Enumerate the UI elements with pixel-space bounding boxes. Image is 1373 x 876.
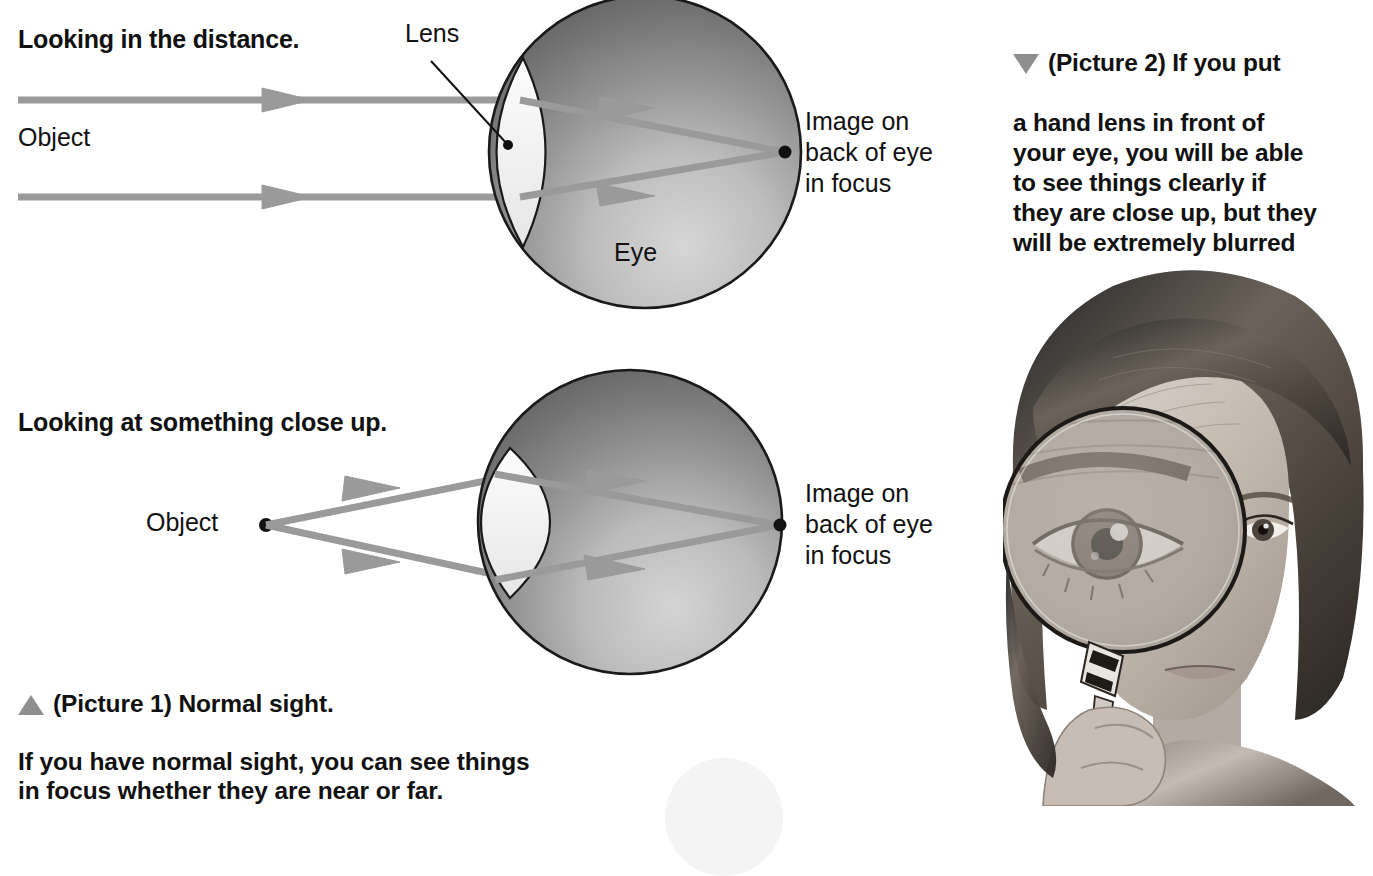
- image-point-bottom: [774, 519, 787, 532]
- caption-picture-2-title: (Picture 2) If you put: [1048, 48, 1280, 78]
- incoming-rays-top: [18, 88, 500, 209]
- caption-picture-1: (Picture 1) Normal sight. If you have no…: [18, 660, 530, 834]
- photo-girl-with-hand-lens: [1003, 258, 1373, 806]
- triangle-down-icon: [1013, 54, 1039, 74]
- image-label-bottom: Image on back of eye in focus: [805, 478, 933, 571]
- heading-looking-distance: Looking in the distance.: [18, 25, 299, 54]
- heading-looking-close: Looking at something close up.: [18, 408, 387, 437]
- eye-label-top: Eye: [614, 238, 657, 267]
- image-label-top: Image on back of eye in focus: [805, 106, 933, 199]
- triangle-up-icon: [18, 695, 44, 715]
- background-artifact-circle: [665, 758, 783, 876]
- object-label-top: Object: [18, 123, 90, 152]
- caption-picture-1-title: (Picture 1) Normal sight.: [53, 689, 334, 718]
- image-point-top: [779, 146, 792, 159]
- object-label-bottom: Object: [146, 508, 218, 537]
- lens-label: Lens: [405, 19, 459, 48]
- caption-picture-1-body: If you have normal sight, you can see th…: [18, 747, 530, 805]
